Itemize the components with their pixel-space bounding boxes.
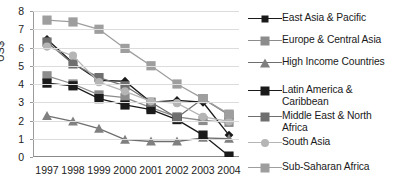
square-marker — [261, 164, 270, 173]
diamond-marker — [262, 16, 269, 23]
gridline — [33, 29, 239, 30]
gridline — [33, 48, 239, 49]
legend-key — [248, 162, 282, 174]
legend-key — [248, 13, 282, 25]
legend-label: South Asia — [282, 136, 330, 148]
legend-item[interactable]: East Asia & Pacific — [248, 12, 366, 25]
y-tick-label: 8 — [2, 6, 24, 17]
y-tick-mark — [30, 11, 33, 12]
y-tick-label: 4 — [2, 79, 24, 90]
y-tick-mark — [30, 121, 33, 122]
legend-label: East Asia & Pacific — [282, 12, 366, 24]
legend-label: Sub-Saharan Africa — [282, 161, 370, 173]
circle-marker — [95, 78, 103, 86]
x-tick-label: 2003 — [191, 164, 214, 176]
square-marker — [68, 81, 77, 90]
legend-item[interactable]: High Income Countries — [248, 56, 385, 69]
legend-item[interactable]: Sub-Saharan Africa — [248, 161, 370, 174]
y-tick-mark — [30, 66, 33, 67]
gridline — [33, 121, 239, 122]
square-marker — [261, 87, 270, 96]
x-tick-label: 2004 — [217, 164, 240, 176]
legend-key — [248, 111, 282, 123]
y-tick-mark — [30, 29, 33, 30]
legend-key — [248, 57, 282, 69]
y-tick-label: 3 — [2, 97, 24, 108]
x-tick-label: 2002 — [165, 164, 188, 176]
y-tick-label: 5 — [2, 61, 24, 72]
gridline — [33, 84, 239, 85]
legend-key — [248, 85, 282, 97]
y-tick-mark — [30, 139, 33, 140]
square-marker — [224, 110, 233, 119]
chart-legend: East Asia & PacificEurope & Central Asia… — [248, 6, 396, 178]
legend-label: High Income Countries — [282, 56, 385, 68]
gridline — [33, 66, 239, 67]
legend-label: Latin America & Caribbean — [282, 84, 353, 107]
circle-marker — [69, 52, 77, 60]
x-tick-label: 1998 — [61, 164, 84, 176]
x-tick-label: 1997 — [35, 164, 58, 176]
legend-label: Middle East & North Africa — [282, 110, 372, 133]
square-marker — [261, 37, 270, 46]
triangle-marker — [42, 111, 52, 120]
y-tick-label: 0 — [2, 152, 24, 163]
square-marker — [68, 17, 77, 26]
triangle-marker — [260, 59, 270, 68]
circle-marker — [261, 139, 269, 147]
gridline — [33, 139, 239, 140]
square-marker — [261, 113, 270, 122]
legend-item[interactable]: Europe & Central Asia — [248, 34, 381, 47]
chart-screenshot: US$ 876543210 19971998199920002001200220… — [0, 0, 396, 182]
legend-label: Europe & Central Asia — [282, 34, 381, 46]
legend-item[interactable]: South Asia — [248, 136, 330, 149]
y-tick-label: 6 — [2, 42, 24, 53]
legend-key — [248, 35, 282, 47]
x-tick-label: 1999 — [87, 164, 110, 176]
y-axis-tick-labels: 876543210 — [0, 11, 30, 157]
y-tick-label: 1 — [2, 134, 24, 145]
circle-marker — [121, 87, 129, 95]
y-tick-label: 7 — [2, 24, 24, 35]
y-tick-mark — [30, 157, 33, 158]
legend-key — [248, 137, 282, 149]
x-tick-label: 2000 — [113, 164, 136, 176]
y-tick-label: 2 — [2, 115, 24, 126]
square-marker — [42, 16, 51, 25]
x-axis-tick-labels: 19971998199920002001200220032004 — [33, 162, 239, 178]
gridline — [33, 11, 239, 12]
legend-item[interactable]: Latin America & Caribbean — [248, 84, 353, 107]
y-tick-mark — [30, 48, 33, 49]
gridline — [33, 102, 239, 103]
square-marker — [224, 151, 233, 157]
y-tick-mark — [30, 84, 33, 85]
square-marker — [68, 59, 77, 68]
y-tick-mark — [30, 102, 33, 103]
legend-item[interactable]: Middle East & North Africa — [248, 110, 372, 133]
plot-area — [33, 11, 239, 157]
x-tick-label: 2001 — [139, 164, 162, 176]
